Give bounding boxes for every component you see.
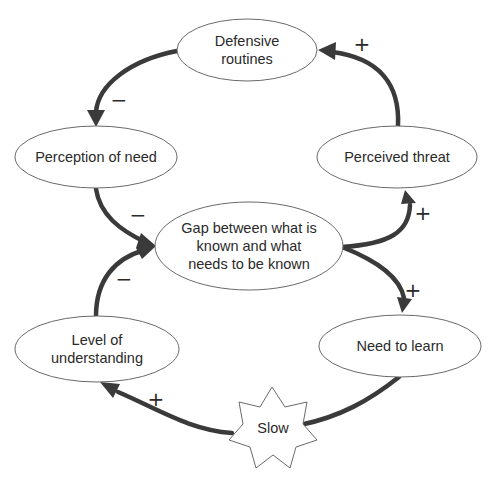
sign-gap-to-need: + xyxy=(405,280,422,300)
edge-slow-to-level xyxy=(118,392,232,433)
sign-perception-to-gap: − xyxy=(130,205,147,225)
sign-defensive-to-perception: − xyxy=(111,90,128,110)
label-perceived-threat: Perceived threat xyxy=(344,148,450,166)
arrowhead-icon xyxy=(100,382,120,398)
sign-level-to-gap: − xyxy=(116,269,133,289)
sign-gap-to-threat: + xyxy=(415,203,432,223)
edge-gap-to-threat xyxy=(342,205,410,247)
label-perception-of-need: Perception of need xyxy=(35,148,157,166)
label-defensive-routines: Defensive routines xyxy=(215,32,279,68)
edge-need-to-slow xyxy=(300,377,399,425)
label-gap: Gap between what is known and what needs… xyxy=(181,219,316,273)
arrowhead-icon xyxy=(318,42,336,60)
edge-defensive-to-perception xyxy=(96,51,177,112)
label-slow: Slow xyxy=(257,419,288,437)
sign-need-to-level: + xyxy=(148,389,165,409)
label-need-to-learn: Need to learn xyxy=(356,337,443,355)
edge-threat-to-defensive xyxy=(332,52,398,126)
sign-threat-to-defensive: + xyxy=(354,34,371,54)
arrowhead-icon xyxy=(87,110,105,127)
label-level-of-understanding: Level of understanding xyxy=(51,331,143,367)
edge-gap-to-need xyxy=(342,247,404,298)
